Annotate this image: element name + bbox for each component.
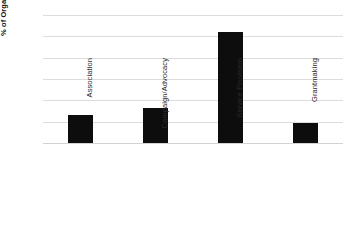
x-axis-tick-label: Campaign/Advocacy — [160, 58, 169, 148]
gridline — [43, 15, 343, 16]
chart-title-cropped — [0, 0, 348, 8]
x-axis-tick-label: Association — [85, 58, 94, 148]
x-axis-tick-label: Grantmaking — [310, 58, 319, 148]
x-axis-tick-label: Service Provision — [235, 58, 244, 148]
bar-chart: % of Organisations 6050403020100 Associa… — [0, 0, 348, 231]
gridline — [43, 36, 343, 37]
y-axis-title: % of Organisations — [0, 0, 8, 36]
